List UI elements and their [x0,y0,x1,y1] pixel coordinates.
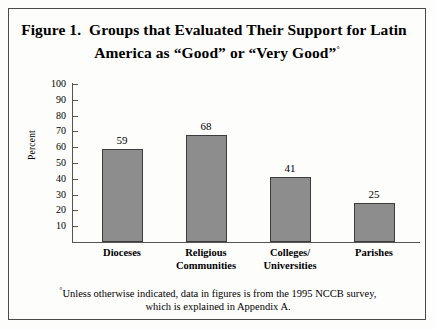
y-axis-tick-label: 100 [40,79,66,89]
y-axis-tick-label: 70 [40,126,66,136]
y-axis-tick-mark [73,195,78,196]
x-axis-line [72,242,420,243]
bar [270,177,311,242]
x-axis-category-label-line: Parishes [326,247,422,260]
y-axis-tick-mark [73,179,78,180]
y-axis-tick-mark [73,100,78,101]
bar-value-label: 68 [176,121,236,132]
x-axis-category-label: Parishes [326,247,422,260]
y-axis-tick-label: 60 [40,142,66,152]
x-axis-category-label-line: Dioceses [74,247,170,260]
footnote-text: Unless otherwise indicated, data in figu… [62,288,376,312]
y-axis-title: Percent [27,110,37,180]
bar [186,135,227,242]
y-axis-tick-mark [73,84,78,85]
x-axis-category-label: Colleges/Universities [242,247,338,272]
y-axis-tick-mark [73,163,78,164]
y-axis-tick-label: 80 [40,111,66,121]
x-axis-category-label-line: Communities [158,260,254,273]
bar-value-label: 25 [344,189,404,200]
y-axis-tick-label: 30 [40,190,66,200]
bar [102,149,143,242]
y-axis-tick-mark [73,147,78,148]
y-axis-tick-label: 50 [40,158,66,168]
y-axis-tick-mark [73,210,78,211]
y-axis-tick-label: 20 [40,205,66,215]
x-axis-category-label-line: Colleges/ [242,247,338,260]
bar-value-label: 41 [260,163,320,174]
bar [354,203,395,243]
x-axis-category-label-line: Religious [158,247,254,260]
y-axis-tick-mark [73,116,78,117]
x-axis-category-label-line: Universities [242,260,338,273]
y-axis-tick-label: 40 [40,174,66,184]
y-axis-tick-label: 10 [40,221,66,231]
x-axis-category-label: Dioceses [74,247,170,260]
chart-plot-area: Percent 10090807060504030201059Dioceses6… [0,0,436,330]
y-axis-tick-mark [73,131,78,132]
figure-container: Figure 1. Groups that Evaluated Their Su… [0,0,436,330]
y-axis-tick-label: 90 [40,95,66,105]
bar-value-label: 59 [92,135,152,146]
figure-footnote: °Unless otherwise indicated, data in fig… [46,284,390,313]
y-axis-tick-mark [73,226,78,227]
x-axis-category-label: ReligiousCommunities [158,247,254,272]
